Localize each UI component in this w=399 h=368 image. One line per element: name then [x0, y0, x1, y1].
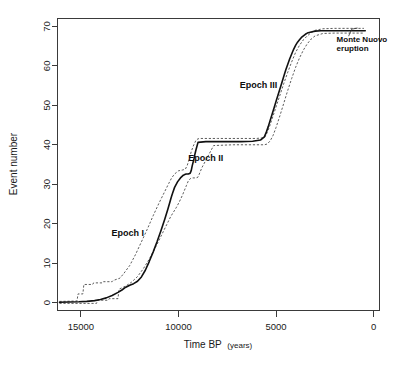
event-number-vs-time-chart: 150001000050000 010203040506070 Epoch I …: [0, 0, 399, 368]
chart-figure: 150001000050000 010203040506070 Epoch I …: [0, 0, 399, 368]
x-tick-label: 10000: [165, 321, 191, 332]
y-tick-label: 40: [41, 139, 52, 150]
y-tick-label: 10: [41, 258, 52, 269]
chart-background: [0, 0, 399, 368]
x-tick-label: 15000: [68, 321, 94, 332]
x-axis-title-main: Time BP: [184, 339, 222, 350]
annotation-monte-nuovo-line1: Monte Nuovo: [337, 35, 388, 44]
y-tick-label: 50: [41, 100, 52, 111]
y-tick-label: 20: [41, 218, 52, 229]
y-tick-label: 70: [41, 21, 52, 32]
x-tick-label: 5000: [265, 321, 286, 332]
y-tick-label: 0: [41, 300, 52, 305]
x-axis-title: Time BP (years): [184, 339, 253, 350]
annotation-epoch-i: Epoch I: [112, 228, 145, 238]
annotation-epoch-ii: Epoch II: [188, 153, 223, 163]
x-tick-label: 0: [371, 321, 376, 332]
x-axis-title-unit: (years): [227, 341, 252, 350]
y-tick-label: 60: [41, 61, 52, 72]
annotation-epoch-iii: Epoch III: [240, 80, 278, 90]
y-axis-title: Event number: [8, 132, 19, 195]
y-tick-label: 30: [41, 179, 52, 190]
annotation-monte-nuovo-line2: eruption: [337, 44, 369, 53]
